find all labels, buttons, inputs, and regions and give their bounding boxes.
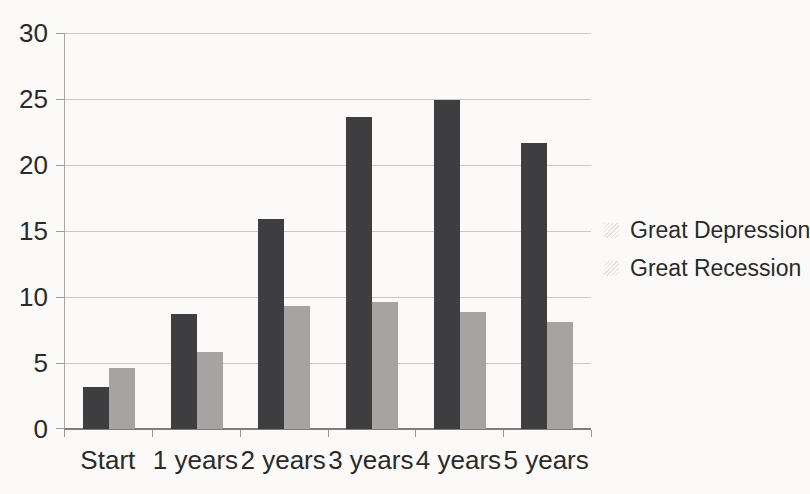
y-axis-label-20: 20 — [2, 149, 48, 181]
y-axis-label-10: 10 — [2, 281, 48, 313]
y-tick-5 — [56, 363, 65, 364]
x-tick-4 — [415, 430, 416, 437]
legend-entry-great-recession: Great Recession — [604, 254, 810, 282]
plot-area — [64, 33, 591, 429]
y-axis-label-15: 15 — [2, 215, 48, 247]
gridline-25 — [65, 99, 591, 100]
unemployment-bar-chart: 051015202530 Start1 years2 years3 years4… — [0, 0, 810, 494]
y-tick-0 — [56, 428, 65, 429]
x-tick-5 — [503, 430, 504, 437]
y-tick-25 — [56, 99, 65, 100]
gridline-30 — [65, 33, 591, 34]
y-axis-label-25: 25 — [2, 83, 48, 115]
gridline-5 — [65, 363, 591, 364]
x-tick-1 — [152, 430, 153, 437]
x-tick-0 — [64, 430, 65, 437]
x-axis-label-5-years: 5 years — [491, 444, 601, 476]
y-tick-15 — [56, 231, 65, 232]
y-tick-20 — [56, 165, 65, 166]
great-recession-bar-5-years — [547, 322, 573, 429]
great-recession-bar-2-years — [284, 306, 310, 429]
y-tick-30 — [56, 33, 65, 34]
great-depression-bar-2-years — [258, 219, 284, 429]
great-recession-bar-1-years — [197, 352, 223, 429]
y-tick-10 — [56, 297, 65, 298]
y-axis-label-5: 5 — [2, 347, 48, 379]
legend-entry-great-depression: Great Depression — [604, 216, 810, 244]
great-recession-bar-4-years — [460, 312, 486, 429]
legend-label-great-recession: Great Recession — [630, 254, 801, 282]
y-axis-label-30: 30 — [2, 17, 48, 49]
great-depression-bar-1-years — [171, 314, 197, 429]
great-depression-bar-4-years — [434, 100, 460, 429]
y-axis-label-0: 0 — [2, 413, 48, 445]
great-recession-bar-start — [109, 368, 135, 429]
gridline-10 — [65, 297, 591, 298]
great-depression-bar-5-years — [521, 143, 547, 429]
great-depression-bar-3-years — [346, 117, 372, 429]
gridline-15 — [65, 231, 591, 232]
gridline-20 — [65, 165, 591, 166]
x-tick-3 — [328, 430, 329, 437]
legend-label-great-depression: Great Depression — [630, 216, 810, 244]
x-tick-2 — [240, 430, 241, 437]
great-depression-bar-start — [83, 387, 109, 429]
great-recession-bar-3-years — [372, 302, 398, 429]
great-depression-swatch-icon — [604, 223, 619, 238]
x-tick-6 — [591, 430, 592, 437]
legend: Great Depression Great Recession — [604, 216, 810, 282]
great-recession-swatch-icon — [604, 261, 619, 276]
